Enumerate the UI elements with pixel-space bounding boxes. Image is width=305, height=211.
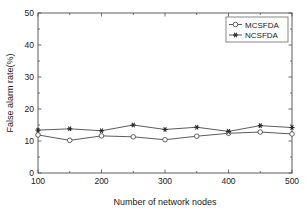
x-axis-title: Number of network nodes [113,197,217,207]
data-point [99,134,104,139]
data-point [163,137,168,142]
legend-marker [233,22,238,27]
data-point [67,138,72,143]
y-axis-title: False alarm rate(%) [5,53,15,132]
data-point [131,135,136,140]
x-tick-label: 500 [285,176,299,186]
y-tick-label: 10 [25,136,35,146]
legend-label: MCSFDA [245,21,279,30]
y-tick-label: 50 [25,8,35,18]
y-tick-label: 40 [25,40,35,50]
data-point [290,132,295,137]
y-tick-label: 30 [25,72,35,82]
y-tick-label: 20 [25,104,35,114]
data-point [36,133,41,138]
x-tick-label: 200 [94,176,108,186]
x-tick-label: 400 [221,176,235,186]
data-point [258,130,263,135]
data-point [194,134,199,139]
chart-legend[interactable]: MCSFDANCSFDA [226,17,288,42]
chart-figure: 100200300400500 01020304050 Number of ne… [0,0,305,211]
y-tick-label: 0 [29,168,34,178]
x-tick-label: 300 [158,176,172,186]
legend-label: NCSFDA [245,31,279,40]
false-alarm-rate-line-chart: 100200300400500 01020304050 Number of ne… [0,0,305,211]
